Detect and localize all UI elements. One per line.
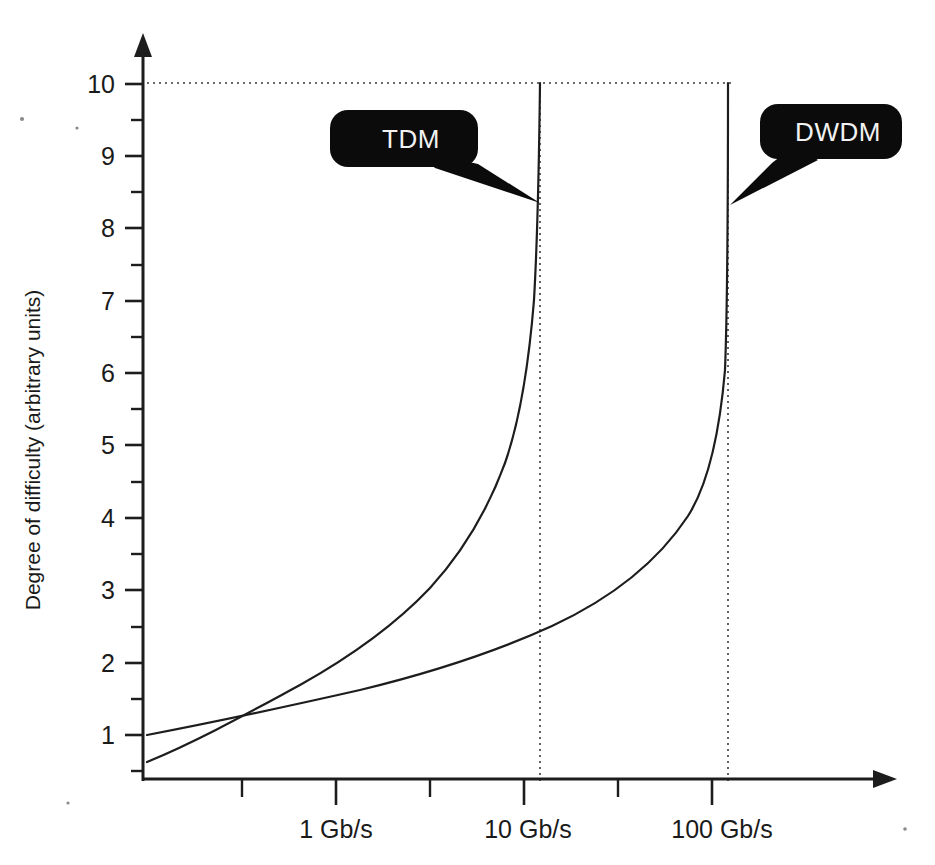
y-tick-label-10: 10 <box>87 70 115 98</box>
x-axis-arrowhead <box>873 770 897 788</box>
y-tick-label-3: 3 <box>101 576 115 604</box>
y-tick-label-5: 5 <box>101 431 115 459</box>
y-tick-label-2: 2 <box>101 649 115 677</box>
scan-speck <box>903 827 907 831</box>
scan-speck <box>75 126 78 129</box>
callout-dwdm-label: DWDM <box>795 117 881 147</box>
y-tick-label-1: 1 <box>101 721 115 749</box>
chart-figure: 10 9 8 7 6 5 4 3 2 1 1 Gb/s 10 Gb/s 100 … <box>0 0 935 865</box>
callout-tdm[interactable]: TDM <box>330 110 540 203</box>
x-tick-label-10gbs: 10 Gb/s <box>484 815 572 843</box>
y-tick-label-6: 6 <box>101 359 115 387</box>
scan-speck <box>66 801 69 804</box>
difficulty-vs-bitrate-chart: 10 9 8 7 6 5 4 3 2 1 1 Gb/s 10 Gb/s 100 … <box>0 0 935 865</box>
callout-tdm-label: TDM <box>382 124 440 154</box>
curve-tdm <box>147 83 540 762</box>
curve-dwdm <box>147 83 728 735</box>
x-tick-label-100gbs: 100 Gb/s <box>671 815 772 843</box>
y-tick-label-8: 8 <box>101 214 115 242</box>
y-tick-label-4: 4 <box>101 504 115 532</box>
y-axis-title: Degree of difficulty (arbitrary units) <box>21 290 44 611</box>
y-tick-label-7: 7 <box>101 287 115 315</box>
x-axis-ticks <box>242 779 712 805</box>
scan-speck <box>20 117 24 121</box>
x-tick-label-1gbs: 1 Gb/s <box>299 815 373 843</box>
y-axis-arrowhead <box>134 33 152 57</box>
callout-dwdm[interactable]: DWDM <box>730 104 902 205</box>
y-tick-label-9: 9 <box>101 142 115 170</box>
